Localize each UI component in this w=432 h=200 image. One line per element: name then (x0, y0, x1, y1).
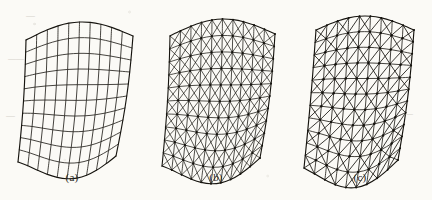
quad-mesh-lines (18, 22, 133, 179)
triangular-mesh-lines (162, 19, 275, 184)
panel-a-quadrilateral-mesh: (a) (0, 0, 144, 200)
mesh-drawing-b (144, 0, 288, 200)
mesh-drawing-a (0, 0, 144, 200)
panel-caption-c: (c) (288, 171, 432, 183)
panel-caption-a: (a) (0, 171, 144, 183)
refined-triangular-mesh-lines (304, 16, 414, 188)
figure-container: (a) (b) (c) ————— (0, 0, 432, 200)
panel-b-triangular-mesh: (b) (144, 0, 288, 200)
mesh-drawing-c (288, 0, 432, 200)
panel-c-refined-triangular-mesh: (c) (288, 0, 432, 200)
panel-caption-b: (b) (144, 171, 288, 183)
